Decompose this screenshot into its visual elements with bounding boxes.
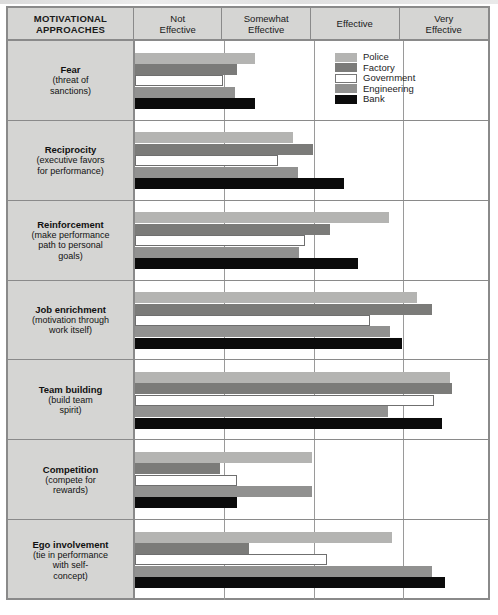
bar-bank — [135, 338, 402, 349]
legend-label: Government — [363, 73, 415, 83]
bar-engineering — [135, 247, 299, 258]
bar-engineering — [135, 486, 312, 497]
scale-1-line1: Somewhat — [244, 13, 289, 24]
scale-3-line1: Very — [426, 13, 462, 24]
legend-swatch-police — [335, 53, 357, 62]
bar-bank — [135, 497, 237, 508]
row-label-name: Team building — [39, 384, 103, 395]
bar-police — [135, 132, 293, 143]
bar-bank — [135, 577, 445, 588]
legend-label: Factory — [363, 63, 395, 73]
bar-government — [135, 235, 305, 246]
scale-0-line2: Effective — [160, 24, 196, 35]
bar-government — [135, 155, 278, 166]
row-label-column: Fear(threat ofsanctions)Reciprocity(exec… — [8, 41, 135, 598]
row-label-sub: goals) — [58, 251, 83, 262]
row-label-sub: sanctions) — [50, 86, 91, 97]
bar-police — [135, 372, 450, 383]
row-label-name: Job enrichment — [35, 304, 106, 315]
plot-area: PoliceFactoryGovernmentEngineeringBank — [135, 41, 488, 598]
header-scale-effective: Effective — [311, 8, 400, 39]
row-label-ego-involvement: Ego involvement(tie in performancewith s… — [8, 520, 133, 600]
scale-1-line2: Effective — [244, 24, 289, 35]
legend-item-police: Police — [335, 52, 415, 63]
gridline — [314, 440, 315, 519]
gridline — [403, 121, 404, 200]
legend-swatch-engineering — [335, 84, 357, 93]
bar-factory — [135, 64, 237, 75]
plot-row — [135, 121, 488, 201]
bar-police — [135, 532, 392, 543]
legend-label: Police — [363, 52, 389, 62]
bar-police — [135, 452, 312, 463]
plot-row — [135, 440, 488, 520]
row-label-fear: Fear(threat ofsanctions) — [8, 41, 133, 121]
bar-government — [135, 395, 434, 406]
bar-bank — [135, 418, 442, 429]
bar-engineering — [135, 167, 298, 178]
header-scale-not-effective: Not Effective — [134, 8, 223, 39]
header-scale-very-effective: Very Effective — [400, 8, 489, 39]
bar-bank — [135, 258, 358, 269]
row-label-reinforcement: Reinforcement(make performancepath to pe… — [8, 201, 133, 281]
legend-item-bank: Bank — [335, 94, 415, 105]
bar-police — [135, 292, 417, 303]
bar-bank — [135, 178, 344, 189]
bar-engineering — [135, 566, 432, 577]
row-label-name: Reinforcement — [37, 219, 104, 230]
row-label-sub: concept) — [53, 571, 88, 582]
row-label-sub: (compete for — [45, 475, 96, 486]
row-label-sub: (tie in performance — [33, 550, 108, 561]
row-label-sub: with self- — [53, 560, 89, 571]
plot-row — [135, 281, 488, 361]
header-motivational-approaches: MOTIVATIONAL APPROACHES — [8, 8, 134, 39]
row-label-job-enrichment: Job enrichment(motivation throughwork it… — [8, 281, 133, 361]
legend-label: Engineering — [363, 84, 414, 94]
bar-bank — [135, 98, 255, 109]
legend-swatch-factory — [335, 63, 357, 72]
header-title-line2: APPROACHES — [34, 24, 107, 35]
gridline — [403, 201, 404, 280]
bar-government — [135, 315, 370, 326]
row-label-reciprocity: Reciprocity(executive favorsfor performa… — [8, 121, 133, 201]
row-label-team-building: Team building(build teamspirit) — [8, 360, 133, 440]
row-label-sub: spirit) — [60, 405, 82, 416]
gridline — [403, 440, 404, 519]
row-label-sub: rewards) — [53, 485, 88, 496]
bar-factory — [135, 543, 249, 554]
bar-factory — [135, 304, 432, 315]
bar-police — [135, 212, 389, 223]
gridline — [314, 41, 315, 120]
scale-2-line1: Effective — [337, 18, 373, 29]
plot-row — [135, 201, 488, 281]
bar-factory — [135, 224, 330, 235]
header-title-line1: MOTIVATIONAL — [34, 13, 107, 24]
legend: PoliceFactoryGovernmentEngineeringBank — [335, 52, 415, 105]
legend-swatch-bank — [335, 95, 357, 104]
row-label-sub: (threat of — [52, 75, 88, 86]
row-label-name: Ego involvement — [32, 539, 108, 550]
bar-engineering — [135, 406, 388, 417]
bar-police — [135, 53, 255, 64]
row-label-sub: (motivation through — [32, 315, 109, 326]
legend-swatch-government — [335, 74, 357, 83]
row-label-sub: (executive favors — [36, 155, 104, 166]
bar-government — [135, 554, 327, 565]
scan-artifact — [0, 0, 498, 4]
column-header-row: MOTIVATIONAL APPROACHES Not Effective So… — [8, 8, 488, 41]
row-label-sub: (make performance — [31, 230, 109, 241]
bar-engineering — [135, 326, 390, 337]
row-label-sub: for performance) — [37, 166, 104, 177]
bar-engineering — [135, 87, 235, 98]
bar-factory — [135, 383, 452, 394]
row-label-sub: work itself) — [49, 325, 92, 336]
legend-item-government: Government — [335, 73, 415, 84]
scale-0-line1: Not — [160, 13, 196, 24]
scale-3-line2: Effective — [426, 24, 462, 35]
chart-frame: MOTIVATIONAL APPROACHES Not Effective So… — [6, 6, 490, 600]
row-label-name: Competition — [43, 464, 98, 475]
bar-government — [135, 75, 223, 86]
row-label-competition: Competition(compete forrewards) — [8, 440, 133, 520]
bar-factory — [135, 144, 313, 155]
header-scale-somewhat-effective: Somewhat Effective — [222, 8, 311, 39]
